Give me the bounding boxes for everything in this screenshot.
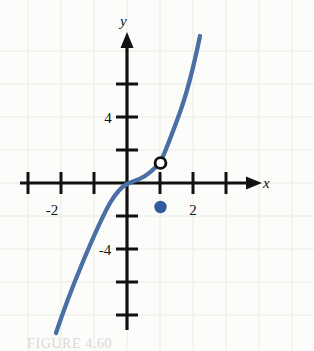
figure-container: x y -2 2 4 -4 FIGURE 4.60 xyxy=(0,0,314,351)
open-circle-marker xyxy=(155,158,166,169)
y-tick-label-neg4: -4 xyxy=(99,242,112,258)
graph-plot: x y -2 2 4 -4 xyxy=(0,0,314,351)
curve-upper-branch xyxy=(161,36,200,161)
filled-dot-marker xyxy=(154,201,166,213)
x-tick-label-neg2: -2 xyxy=(46,202,59,218)
x-tick-label-pos2: 2 xyxy=(189,202,197,218)
y-tick-label-pos4: 4 xyxy=(104,110,112,126)
y-axis-label: y xyxy=(118,13,127,29)
figure-caption: FIGURE 4.60 xyxy=(27,336,112,351)
x-axis-label: x xyxy=(262,175,270,191)
